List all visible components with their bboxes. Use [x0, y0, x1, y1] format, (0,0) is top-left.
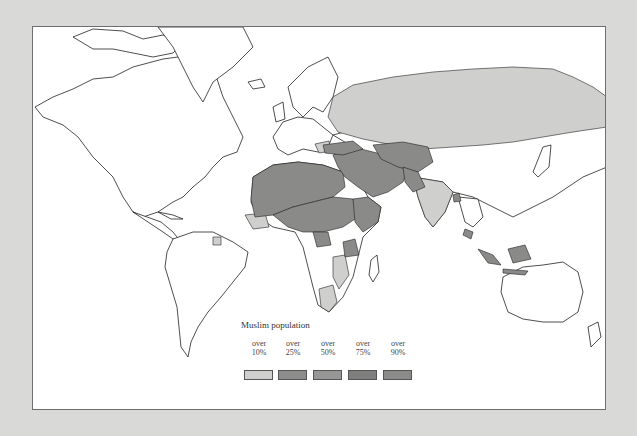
britain: [273, 102, 285, 122]
southeast-asia: [458, 197, 483, 227]
legend-over-label: over: [383, 339, 413, 348]
madagascar: [369, 255, 379, 282]
legend-title: Muslim population: [241, 320, 310, 330]
legend-swatch-50: [313, 370, 342, 380]
legend-swatch-25: [278, 370, 307, 380]
region-bangladesh: [453, 193, 461, 202]
legend-pct-label: 75%: [348, 348, 378, 357]
legend-over-label: over: [244, 339, 274, 348]
legend-over-label: over: [313, 339, 343, 348]
legend-item-10: over 10%: [244, 339, 274, 357]
legend-item-25: over 25%: [278, 339, 308, 357]
region-guyana: [213, 237, 221, 245]
region-indonesia-borneo: [508, 245, 531, 263]
legend-over-label: over: [348, 339, 378, 348]
legend-over-label: over: [278, 339, 308, 348]
legend-swatch-10: [244, 370, 273, 380]
legend-pct-label: 50%: [313, 348, 343, 357]
legend: Muslim population over 10% over 25% over…: [233, 317, 433, 397]
region-malaysia: [463, 229, 473, 239]
region-indonesia-sumatra: [478, 249, 501, 265]
map-frame: Muslim population over 10% over 25% over…: [32, 26, 606, 410]
legend-item-75: over 75%: [348, 339, 378, 357]
legend-item-50: over 50%: [313, 339, 343, 357]
legend-swatch-75: [348, 370, 377, 380]
new-zealand: [588, 322, 601, 347]
legend-pct-label: 10%: [244, 348, 274, 357]
caribbean: [158, 212, 183, 219]
legend-pct-label: 25%: [278, 348, 308, 357]
legend-pct-label: 90%: [383, 348, 413, 357]
legend-item-90: over 90%: [383, 339, 413, 357]
legend-swatch-90: [383, 370, 412, 380]
iceland: [248, 79, 265, 89]
